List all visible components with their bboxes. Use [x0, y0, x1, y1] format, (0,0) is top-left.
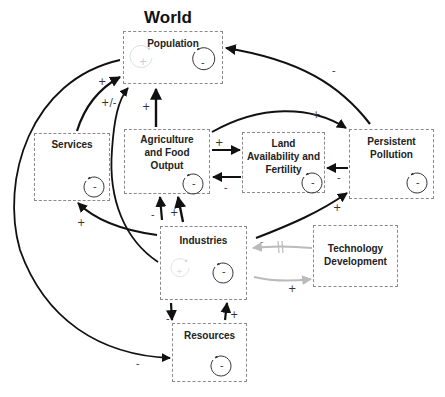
balancing-loop-icon-agriculture: - — [183, 174, 203, 194]
polarity-label: - — [151, 209, 155, 220]
link-agri-pollution — [212, 111, 346, 132]
polarity-label: + — [288, 283, 296, 294]
svg-text:-: - — [201, 57, 205, 68]
link-industries-agri-minus — [160, 197, 162, 220]
reinforcing-loop-icon-industries: + — [171, 259, 189, 277]
balancing-loop-icon-services: - — [84, 177, 104, 197]
polarity-label: + — [312, 109, 320, 120]
svg-text:-: - — [416, 177, 420, 188]
polarity-label: + — [215, 137, 223, 148]
links-layer: + - - - - - + - — [0, 0, 445, 397]
link-industries-agri-plus — [178, 197, 183, 222]
link-industries-population — [111, 88, 158, 262]
balancing-loop-icon-land: - — [302, 173, 322, 193]
svg-text:-: - — [311, 177, 315, 188]
balancing-loop-icon-resources: - — [211, 356, 231, 376]
polarity-label: + — [230, 309, 238, 320]
polarity-label: - — [224, 182, 228, 193]
delay-mark — [278, 241, 279, 253]
polarity-label: - — [337, 172, 341, 183]
link-resources-industries — [225, 303, 227, 320]
world-diagram: World Population Services Agriculture an… — [0, 0, 445, 397]
polarity-label: + — [142, 101, 150, 112]
balancing-loop-icon-pollution: - — [407, 173, 427, 193]
polarity-label: + — [77, 217, 85, 228]
svg-text:+: + — [139, 56, 147, 67]
polarity-label: + — [98, 76, 106, 87]
svg-text:-: - — [93, 181, 97, 192]
polarity-label: - — [332, 65, 336, 76]
balancing-loop-icon-industries: - — [213, 263, 233, 283]
balancing-loop-icon-population: - — [193, 48, 215, 70]
link-industries-pollution — [256, 193, 347, 238]
polarity-label: - — [166, 313, 170, 324]
link-industries-tech — [254, 277, 311, 281]
svg-text:+: + — [176, 267, 183, 276]
svg-text:-: - — [192, 178, 196, 189]
polarity-label: + — [170, 207, 178, 218]
reinforcing-loop-icon-population: + — [130, 45, 152, 67]
polarity-label: +/- — [101, 97, 117, 108]
link-industries-resources — [171, 303, 172, 320]
svg-text:-: - — [222, 266, 226, 277]
polarity-label: - — [260, 236, 264, 247]
delay-mark — [282, 241, 283, 253]
svg-text:-: - — [220, 360, 224, 371]
polarity-label: - — [136, 358, 140, 369]
polarity-label: + — [333, 202, 341, 213]
